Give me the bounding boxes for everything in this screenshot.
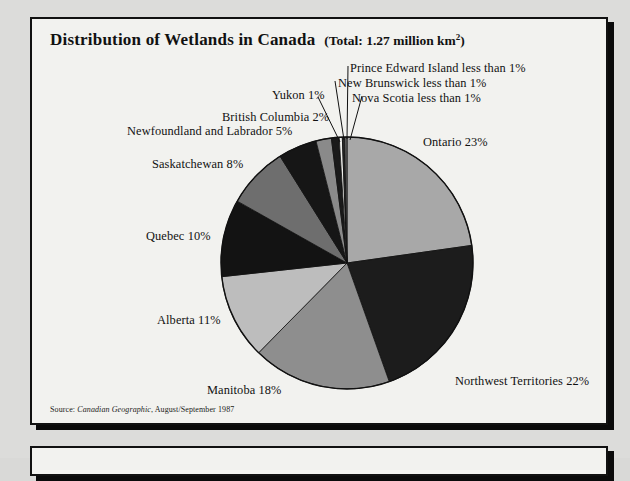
chart-subtitle: (Total: 1.27 million km2) bbox=[324, 33, 465, 48]
pie-label-northwest-territories: Northwest Territories 22% bbox=[455, 374, 589, 389]
pie-label-british-columbia: British Columbia 2% bbox=[222, 110, 329, 125]
title-row: Distribution of Wetlands in Canada(Total… bbox=[50, 30, 465, 50]
pie-label-alberta: Alberta 11% bbox=[157, 313, 221, 328]
pie-label-prince-edward-island: Prince Edward Island less than 1% bbox=[350, 61, 526, 76]
secondary-panel bbox=[30, 446, 608, 476]
pie-label-saskatchewan: Saskatchewan 8% bbox=[152, 157, 243, 172]
pie-label-nova-scotia: Nova Scotia less than 1% bbox=[352, 91, 481, 106]
pie-label-manitoba: Manitoba 18% bbox=[207, 383, 282, 398]
source-journal: Canadian Geographic bbox=[77, 405, 151, 414]
chart-panel: Distribution of Wetlands in Canada(Total… bbox=[30, 17, 608, 425]
pie-label-new-brunswick: New Brunswick less than 1% bbox=[338, 76, 487, 91]
pie-label-yukon: Yukon 1% bbox=[272, 88, 325, 103]
source-prefix: Source: bbox=[50, 405, 75, 414]
pie-label-ontario: Ontario 23% bbox=[423, 135, 488, 150]
pie-label-quebec: Quebec 10% bbox=[146, 229, 211, 244]
pie-label-newfoundland: Newfoundland and Labrador 5% bbox=[127, 124, 293, 139]
subtitle-prefix: (Total: 1.27 million km bbox=[324, 33, 456, 48]
subtitle-suffix: ) bbox=[460, 33, 465, 48]
source-rest: , August/September 1987 bbox=[151, 405, 234, 414]
page-title: Distribution of Wetlands in Canada bbox=[50, 30, 315, 49]
source-citation: Source: Canadian Geographic, August/Sept… bbox=[50, 405, 234, 414]
